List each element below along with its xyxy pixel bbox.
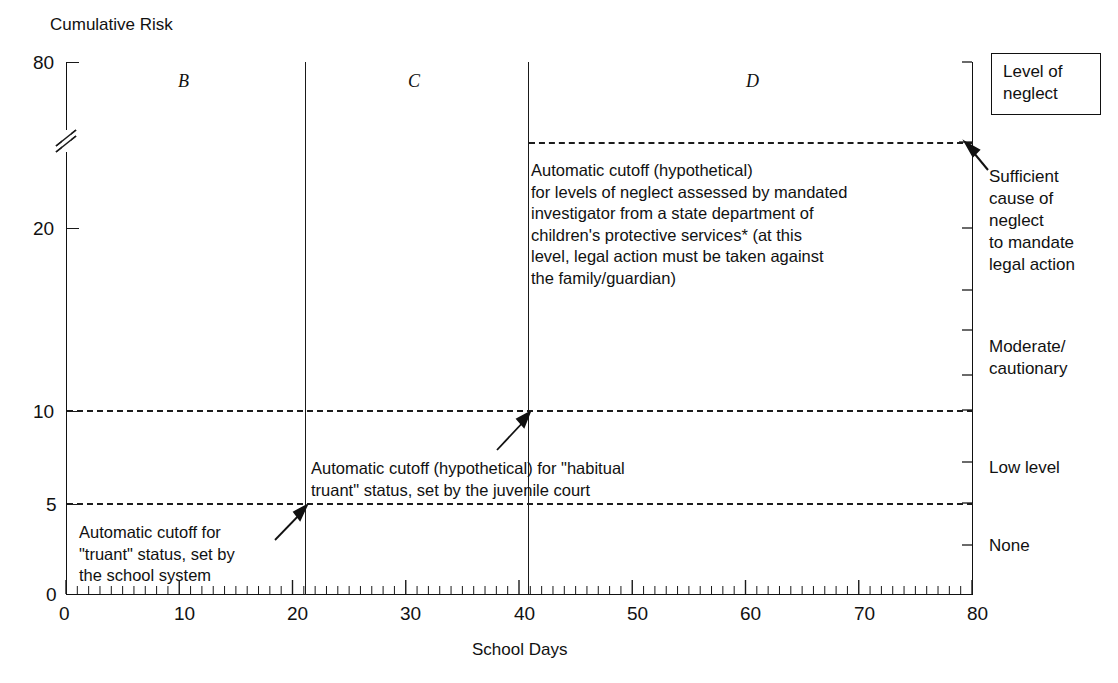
cutoff-line-neglect bbox=[529, 142, 973, 144]
x-tick-label-40: 40 bbox=[514, 604, 535, 623]
x-tick-label-30: 30 bbox=[400, 604, 421, 623]
x-axis-line bbox=[66, 594, 973, 595]
y-tick-label-10: 10 bbox=[33, 402, 54, 421]
cutoff-line-habitual-truant bbox=[67, 410, 973, 412]
legend-title: Level of neglect bbox=[992, 54, 1100, 105]
y-tick-label-0: 0 bbox=[46, 585, 57, 604]
region-label-b: B bbox=[178, 72, 189, 90]
x-tick-label-80: 80 bbox=[967, 604, 988, 623]
x-axis-minor-ticks bbox=[77, 586, 960, 594]
annotation-neglect-cutoff: Automatic cutoff (hypothetical) for leve… bbox=[531, 160, 961, 289]
x-tick-label-60: 60 bbox=[740, 604, 761, 623]
y-axis-title: Cumulative Risk bbox=[50, 16, 173, 33]
cutoff-line-truant bbox=[67, 503, 973, 505]
legend-box: Level of neglect bbox=[991, 53, 1101, 115]
region-label-d: D bbox=[746, 72, 759, 90]
x-tick-label-0: 0 bbox=[59, 604, 70, 623]
x-axis-title: School Days bbox=[472, 641, 567, 658]
x-tick-label-50: 50 bbox=[627, 604, 648, 623]
region-label-c: C bbox=[408, 72, 420, 90]
annotation-habitual-truant: Automatic cutoff (hypothetical) for "hab… bbox=[311, 458, 731, 501]
x-tick-label-10: 10 bbox=[174, 604, 195, 623]
arrow-habitual-truant bbox=[497, 412, 530, 450]
right-label-none: None bbox=[989, 535, 1030, 557]
right-label-sufficient: Sufficient cause of neglect to mandate l… bbox=[989, 166, 1075, 276]
y-tick-80 bbox=[67, 62, 79, 63]
x-tick-label-70: 70 bbox=[854, 604, 875, 623]
annotation-truant: Automatic cutoff for "truant" status, se… bbox=[79, 522, 329, 587]
right-label-moderate: Moderate/ cautionary bbox=[989, 336, 1067, 380]
right-label-low: Low level bbox=[989, 457, 1060, 479]
region-divider-20 bbox=[305, 62, 306, 595]
chart-canvas: Cumulative Risk 80 20 10 5 0 0 10 20 30 … bbox=[0, 0, 1118, 683]
y-tick-label-80: 80 bbox=[33, 53, 54, 72]
y-tick-label-5: 5 bbox=[46, 495, 57, 514]
y-tick-20 bbox=[67, 228, 79, 229]
right-axis-ticks bbox=[959, 62, 972, 545]
y-tick-label-20: 20 bbox=[33, 219, 54, 238]
y-axis-line bbox=[66, 62, 67, 595]
x-tick-label-20: 20 bbox=[287, 604, 308, 623]
arrow-neglect-cutoff bbox=[965, 142, 988, 170]
